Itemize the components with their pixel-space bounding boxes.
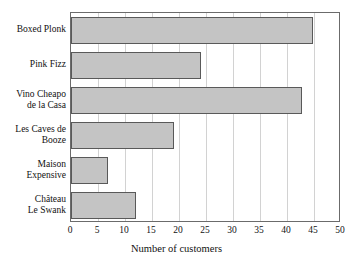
x-tick-label-0: 0 — [55, 225, 85, 235]
category-label-line: Vino Cheapo — [0, 89, 66, 100]
x-tick-label-35: 35 — [244, 225, 274, 235]
bar[interactable] — [71, 157, 108, 184]
category-label: MaisonExpensive — [0, 159, 66, 180]
bar-band — [71, 153, 341, 188]
bar-band — [71, 118, 341, 153]
gridline-50 — [341, 13, 342, 221]
category-label-line: Boxed Plonk — [0, 24, 66, 35]
x-tick-label-25: 25 — [190, 225, 220, 235]
bar[interactable] — [71, 122, 174, 149]
bar-band — [71, 83, 341, 118]
category-label: Boxed Plonk — [0, 24, 66, 35]
bar-band — [71, 13, 341, 48]
category-label-line: Pink Fizz — [0, 59, 66, 70]
category-label-line: Château — [0, 194, 66, 205]
category-label-line: de la Casa — [0, 100, 66, 111]
x-axis-title: Number of customers — [0, 243, 353, 254]
bar-band — [71, 48, 341, 83]
category-label: Les Caves deBooze — [0, 124, 66, 145]
category-label-line: Les Caves de — [0, 124, 66, 135]
x-tick-label-30: 30 — [217, 225, 247, 235]
x-tick-label-5: 5 — [82, 225, 112, 235]
category-label-line: Booze — [0, 135, 66, 146]
bars-layer — [71, 13, 339, 221]
x-tick-label-40: 40 — [271, 225, 301, 235]
category-label: Vino Cheapode la Casa — [0, 89, 66, 110]
plot-area — [70, 12, 340, 222]
bar[interactable] — [71, 87, 302, 114]
x-tick-label-50: 50 — [325, 225, 353, 235]
bar-band — [71, 188, 341, 223]
category-label: ChâteauLe Swank — [0, 194, 66, 215]
x-tick-label-10: 10 — [109, 225, 139, 235]
category-label: Pink Fizz — [0, 59, 66, 70]
x-tick-label-45: 45 — [298, 225, 328, 235]
category-label-line: Expensive — [0, 170, 66, 181]
bar[interactable] — [71, 192, 136, 219]
category-label-line: Maison — [0, 159, 66, 170]
bar[interactable] — [71, 17, 313, 44]
bar[interactable] — [71, 52, 201, 79]
bar-chart: Boxed PlonkPink FizzVino Cheapode la Cas… — [0, 0, 353, 265]
x-tick-label-15: 15 — [136, 225, 166, 235]
x-tick-label-20: 20 — [163, 225, 193, 235]
category-label-line: Le Swank — [0, 205, 66, 216]
